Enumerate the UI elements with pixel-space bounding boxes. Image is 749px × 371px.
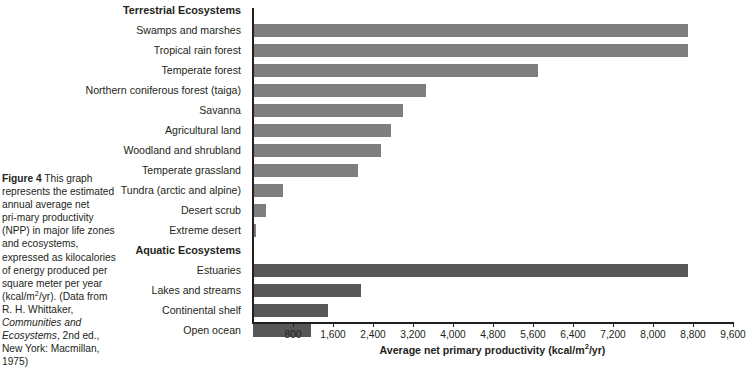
bar (253, 204, 266, 217)
group-heading-terrestrial: Terrestrial Ecosystems (0, 0, 247, 20)
x-axis-tick (573, 322, 574, 327)
category-label: Northern coniferous forest (taiga) (0, 80, 247, 100)
category-label: Extreme desert (0, 220, 247, 240)
category-label: Temperate grassland (0, 160, 247, 180)
x-axis-tick (333, 322, 334, 327)
category-label: Estuaries (0, 260, 247, 280)
category-label: Tropical rain forest (0, 40, 247, 60)
category-label: Open ocean (0, 320, 247, 340)
bar (253, 64, 538, 77)
bar (253, 144, 381, 157)
x-axis-tick-label: 4,800 (480, 329, 506, 340)
bar-row: Savanna (0, 100, 749, 120)
category-label: Lakes and streams (0, 280, 247, 300)
bar-row: Extreme desert (0, 220, 749, 240)
bar-row: Temperate forest (0, 60, 749, 80)
x-axis-tick (453, 322, 454, 327)
x-axis-tick (693, 322, 694, 327)
group-heading-row: Aquatic Ecosystems (0, 240, 749, 260)
x-axis-tick (533, 322, 534, 327)
x-axis-tick-label: 6,400 (560, 329, 586, 340)
bar (253, 304, 328, 317)
x-axis-tick (653, 322, 654, 327)
bar (253, 84, 426, 97)
x-axis-tick-label: 2,400 (360, 329, 386, 340)
x-axis-tick (373, 322, 374, 327)
group-heading-aquatic: Aquatic Ecosystems (0, 240, 247, 260)
category-label: Desert scrub (0, 200, 247, 220)
bar-row: Tropical rain forest (0, 40, 749, 60)
x-axis-tick-label: 800 (285, 329, 302, 340)
category-label: Woodland and shrubland (0, 140, 247, 160)
bar-row: Temperate grassland (0, 160, 749, 180)
bar-row: Estuaries (0, 260, 749, 280)
x-axis-tick (493, 322, 494, 327)
bar (253, 104, 403, 117)
category-label: Continental shelf (0, 300, 247, 320)
x-axis-tick-label: 8,000 (640, 329, 666, 340)
bar-row: Swamps and marshes (0, 20, 749, 40)
x-axis-tick (733, 322, 734, 327)
x-axis-tick-label: 4,000 (440, 329, 466, 340)
x-axis-tick-label: 3,200 (400, 329, 426, 340)
category-label: Savanna (0, 100, 247, 120)
x-axis-tick (613, 322, 614, 327)
bar-row: Woodland and shrubland (0, 140, 749, 160)
x-axis-title-superscript: 2 (585, 342, 589, 351)
bar (253, 284, 361, 297)
bar-row: Northern coniferous forest (taiga) (0, 80, 749, 100)
npp-bar-chart: Terrestrial EcosystemsSwamps and marshes… (0, 0, 749, 371)
category-label: Swamps and marshes (0, 20, 247, 40)
bar (253, 324, 311, 337)
bar (253, 24, 688, 37)
x-axis-tick-label: 8,800 (680, 329, 706, 340)
y-axis-line (252, 8, 254, 323)
x-axis-tick (413, 322, 414, 327)
category-label: Temperate forest (0, 60, 247, 80)
bar-row: Agricultural land (0, 120, 749, 140)
x-axis-tick-label: 1,600 (320, 329, 346, 340)
bar-row: Continental shelf (0, 300, 749, 320)
bar (253, 164, 358, 177)
bar (253, 184, 283, 197)
group-heading-row: Terrestrial Ecosystems (0, 0, 749, 20)
x-axis-title: Average net primary productivity (kcal/m… (252, 344, 733, 356)
bar-row: Desert scrub (0, 200, 749, 220)
bar-row: Lakes and streams (0, 280, 749, 300)
x-axis-tick-label: 7,200 (600, 329, 626, 340)
x-axis-tick (293, 322, 294, 327)
bar (253, 264, 688, 277)
bar (253, 44, 688, 57)
category-label: Agricultural land (0, 120, 247, 140)
bar (253, 124, 391, 137)
x-axis-tick-label: 9,600 (720, 329, 746, 340)
x-axis-tick-label: 5,600 (520, 329, 546, 340)
bar-row: Tundra (arctic and alpine) (0, 180, 749, 200)
category-label: Tundra (arctic and alpine) (0, 180, 247, 200)
